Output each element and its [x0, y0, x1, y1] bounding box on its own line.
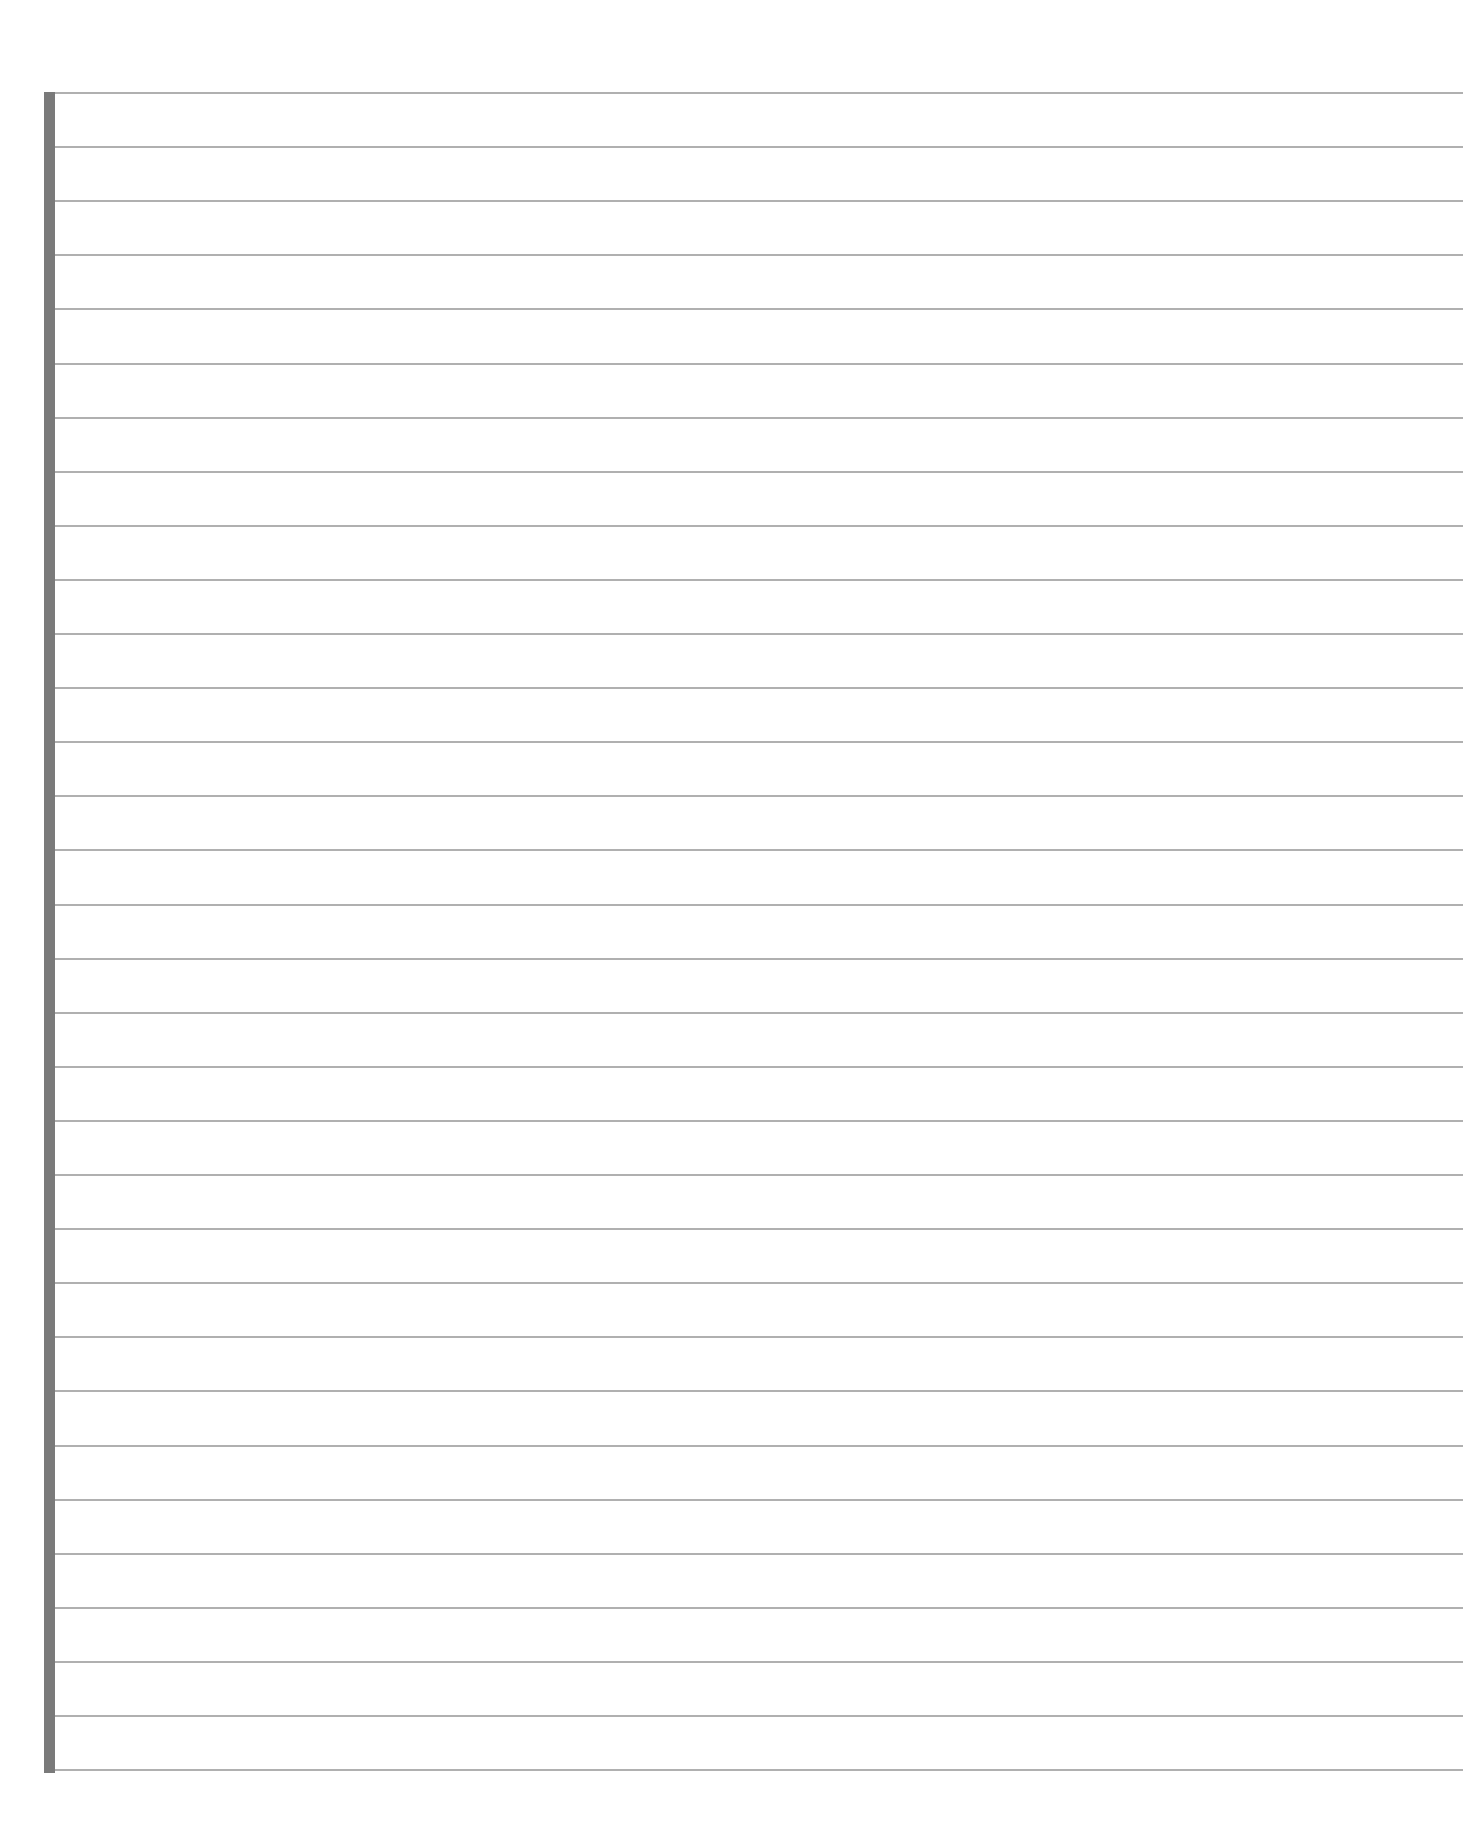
ruled-line — [55, 417, 1463, 419]
ruled-line — [55, 1607, 1463, 1609]
ruled-line — [55, 1066, 1463, 1068]
ruled-line — [55, 687, 1463, 689]
ruled-line — [55, 1282, 1463, 1284]
ruled-line — [55, 579, 1463, 581]
ruled-line — [55, 1499, 1463, 1501]
ruled-line — [55, 200, 1463, 202]
lined-paper-page — [0, 0, 1476, 1824]
ruled-line — [55, 254, 1463, 256]
ruled-line — [55, 363, 1463, 365]
ruled-line — [55, 1174, 1463, 1176]
ruled-line — [55, 904, 1463, 906]
ruled-line — [55, 741, 1463, 743]
ruled-line — [55, 1445, 1463, 1447]
ruled-line — [55, 1012, 1463, 1014]
ruled-line — [55, 1661, 1463, 1663]
ruled-line — [55, 92, 1463, 94]
ruled-line — [55, 308, 1463, 310]
ruled-line — [55, 1336, 1463, 1338]
ruled-line — [55, 1715, 1463, 1717]
ruled-line — [55, 1553, 1463, 1555]
ruled-line — [55, 1769, 1463, 1771]
left-margin-bar — [44, 92, 55, 1773]
ruled-line — [55, 471, 1463, 473]
ruled-line — [55, 1228, 1463, 1230]
ruled-line — [55, 958, 1463, 960]
ruled-line — [55, 146, 1463, 148]
ruled-line — [55, 1390, 1463, 1392]
ruled-line — [55, 849, 1463, 851]
ruled-line — [55, 795, 1463, 797]
ruled-line — [55, 633, 1463, 635]
ruled-line — [55, 1120, 1463, 1122]
ruled-line — [55, 525, 1463, 527]
